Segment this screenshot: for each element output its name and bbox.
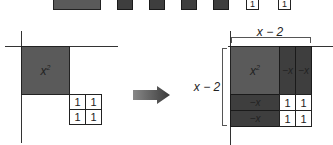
x-squared-label: x2: [250, 64, 260, 78]
right-arrow-icon: [133, 86, 171, 104]
tile-unit: 1: [278, 0, 291, 10]
negative-x-tile: −x: [295, 46, 312, 95]
negative-x-tile: −x: [279, 46, 296, 95]
unit-tile: 1: [279, 94, 296, 111]
unit-tile: 1: [85, 109, 102, 125]
negative-x-tile: −x: [230, 94, 280, 111]
tile-negative-x: [181, 0, 197, 10]
tile-negative-x: [117, 0, 133, 10]
unit-tile: 1: [69, 94, 86, 110]
unit-tile: 1: [279, 110, 296, 127]
tile-x-squared: [53, 0, 101, 10]
unit-tile: 1: [295, 110, 312, 127]
tile-negative-x: [213, 0, 229, 10]
x-squared-label: x2: [41, 64, 51, 78]
side-dimension-brace: [222, 48, 227, 126]
unit-tile: 1: [69, 109, 86, 125]
tile-negative-x: [149, 0, 165, 10]
unit-tile: 1: [295, 94, 312, 111]
tile-unit: 1: [246, 0, 259, 10]
x-squared-tile: x2: [230, 46, 280, 95]
side-dimension-label: x − 2: [188, 81, 226, 93]
negative-x-tile: −x: [230, 110, 280, 127]
x-squared-tile: x2: [21, 46, 70, 95]
top-dimension-brace: [231, 37, 311, 43]
unit-tile: 1: [85, 94, 102, 110]
